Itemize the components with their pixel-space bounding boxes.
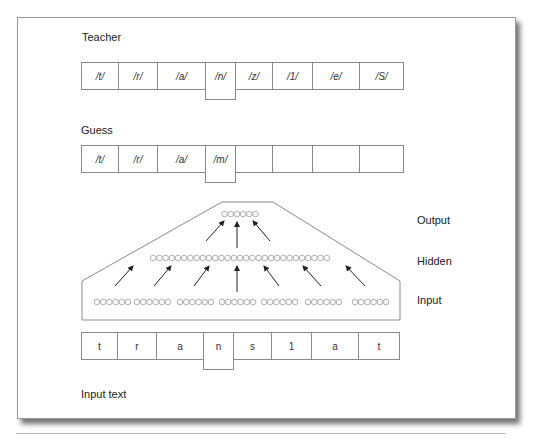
- network-diagram: [0, 0, 533, 441]
- hidden-layer-units: [150, 255, 329, 261]
- unit-circle: [244, 299, 250, 305]
- unit-circle: [231, 255, 237, 261]
- input-char-cell: t: [358, 332, 400, 360]
- unit-circle: [237, 255, 243, 261]
- input-char-cell: 1: [271, 332, 312, 360]
- unit-circle: [268, 255, 274, 261]
- unit-circle: [280, 299, 286, 305]
- arrow-icon: [346, 266, 365, 286]
- unit-circle: [299, 255, 305, 261]
- unit-circle: [274, 299, 280, 305]
- unit-circle: [113, 299, 119, 305]
- unit-circle: [175, 255, 181, 261]
- unit-circle: [250, 255, 256, 261]
- arrow-icon: [264, 266, 279, 286]
- unit-circle: [165, 299, 171, 305]
- unit-circle: [225, 255, 231, 261]
- unit-circle: [274, 255, 280, 261]
- unit-circle: [336, 299, 342, 305]
- unit-circle: [232, 299, 238, 305]
- unit-circle: [318, 299, 324, 305]
- input-layer-units: [94, 299, 389, 305]
- unit-circle: [147, 299, 153, 305]
- input-char-cell: a: [156, 332, 204, 360]
- unit-circle: [100, 299, 106, 305]
- unit-circle: [243, 255, 249, 261]
- arrow-icon: [303, 266, 321, 286]
- unit-circle: [247, 211, 253, 217]
- unit-circle: [293, 255, 299, 261]
- input-char-cell-focus: n: [203, 332, 234, 370]
- unit-circle: [140, 299, 146, 305]
- unit-circle: [311, 299, 317, 305]
- unit-circle: [305, 299, 311, 305]
- unit-circle: [134, 299, 140, 305]
- unit-circle: [238, 299, 244, 305]
- unit-circle: [208, 299, 214, 305]
- unit-circle: [234, 211, 240, 217]
- unit-circle: [256, 255, 262, 261]
- arrow-icon: [206, 221, 224, 241]
- divider: [16, 433, 506, 434]
- unit-circle: [119, 299, 125, 305]
- unit-circle: [377, 299, 383, 305]
- arrow-icon: [154, 266, 171, 286]
- unit-circle: [181, 255, 187, 261]
- arrow-icon: [115, 266, 133, 286]
- unit-circle: [281, 255, 287, 261]
- unit-circle: [219, 299, 225, 305]
- input-char-cell: s: [233, 332, 272, 360]
- unit-circle: [358, 299, 364, 305]
- output-layer-label: Output: [417, 214, 450, 226]
- unit-circle: [352, 299, 358, 305]
- unit-circle: [200, 255, 206, 261]
- unit-circle: [228, 211, 234, 217]
- unit-circle: [94, 299, 100, 305]
- unit-circle: [305, 255, 311, 261]
- unit-circle: [312, 255, 318, 261]
- unit-circle: [240, 211, 246, 217]
- unit-circle: [267, 299, 273, 305]
- unit-circle: [194, 255, 200, 261]
- unit-circle: [212, 255, 218, 261]
- hidden-layer-label: Hidden: [417, 255, 452, 267]
- unit-circle: [371, 299, 377, 305]
- unit-circle: [188, 255, 194, 261]
- unit-circle: [262, 255, 268, 261]
- unit-circle: [177, 299, 183, 305]
- output-layer-units: [222, 211, 259, 217]
- unit-circle: [250, 299, 256, 305]
- unit-circle: [169, 255, 175, 261]
- unit-circle: [159, 299, 165, 305]
- unit-circle: [261, 299, 267, 305]
- arrows: [115, 221, 365, 292]
- unit-circle: [324, 299, 330, 305]
- unit-circle: [318, 255, 324, 261]
- unit-circle: [324, 255, 330, 261]
- unit-circle: [107, 299, 113, 305]
- unit-circle: [202, 299, 208, 305]
- arrow-icon: [194, 266, 209, 286]
- input-char-cell: r: [117, 332, 157, 360]
- unit-circle: [153, 299, 159, 305]
- unit-circle: [383, 299, 389, 305]
- unit-circle: [157, 255, 163, 261]
- unit-circle: [206, 255, 212, 261]
- unit-circle: [253, 211, 259, 217]
- unit-circle: [150, 255, 156, 261]
- unit-circle: [196, 299, 202, 305]
- unit-circle: [330, 299, 336, 305]
- unit-circle: [222, 211, 228, 217]
- unit-circle: [286, 299, 292, 305]
- arrow-icon: [253, 221, 270, 241]
- unit-circle: [190, 299, 196, 305]
- unit-circle: [163, 255, 169, 261]
- input-text-label: Input text: [81, 388, 126, 400]
- unit-circle: [225, 299, 231, 305]
- unit-circle: [287, 255, 293, 261]
- unit-circle: [219, 255, 225, 261]
- unit-circle: [365, 299, 371, 305]
- unit-circle: [292, 299, 298, 305]
- unit-circle: [183, 299, 189, 305]
- input-char-cell: t: [81, 332, 118, 360]
